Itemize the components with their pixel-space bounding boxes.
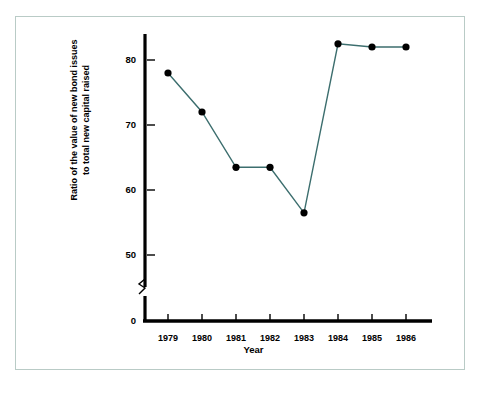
data-point-1979 <box>164 69 171 76</box>
data-point-1984 <box>334 40 341 47</box>
data-point-1980 <box>198 108 205 115</box>
plot-area: Ratio of the value of new bond issues to… <box>0 0 479 396</box>
data-series-line <box>168 44 406 213</box>
chart-page: Ratio of the value of new bond issues to… <box>0 0 479 396</box>
chart-svg <box>0 0 479 396</box>
data-point-1983 <box>300 209 307 216</box>
data-point-1981 <box>232 164 239 171</box>
data-point-1986 <box>402 43 409 50</box>
x-axis-title-text: Year <box>243 344 263 355</box>
data-point-1982 <box>266 164 273 171</box>
x-axis-title: Year <box>0 344 479 355</box>
data-point-1985 <box>368 43 375 50</box>
